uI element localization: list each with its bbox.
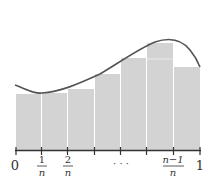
bar-3	[68, 89, 94, 150]
label-n-minus-1-over-n-numerator: n−1	[162, 154, 183, 165]
bar-1	[16, 94, 41, 150]
bar-4	[95, 74, 120, 150]
label-n-minus-1-over-n-denominator: n	[170, 167, 176, 178]
bar-7	[174, 67, 200, 150]
label-1-over-n-denominator: n	[39, 167, 45, 178]
label-2-over-n-denominator: n	[65, 167, 71, 178]
label-ellipsis: · · ·	[113, 158, 129, 169]
label-1-over-n-numerator: 1	[39, 154, 45, 165]
riemann-sum-diagram: 0 1 n 2 n · · · n−1 n 1	[0, 0, 213, 188]
label-2-over-n-numerator: 2	[65, 154, 71, 165]
bar-5	[121, 58, 146, 150]
label-zero: 0	[11, 158, 19, 173]
label-one: 1	[196, 158, 204, 173]
bar-2	[42, 93, 67, 150]
